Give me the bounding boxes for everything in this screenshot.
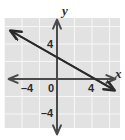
y-tick-label-positive-four: 4 — [47, 38, 54, 50]
coordinate-plane-figure: y x –4 0 4 4 –4 — [0, 0, 125, 140]
x-tick-label-positive-four: 4 — [88, 82, 95, 94]
coordinate-plane-svg: y x –4 0 4 4 –4 — [0, 0, 125, 140]
x-tick-label-negative-four: –4 — [21, 82, 34, 94]
x-axis-name-label: x — [114, 66, 122, 81]
origin-label: 0 — [48, 82, 54, 94]
y-axis-name-label: y — [60, 3, 68, 18]
y-tick-label-negative-four: –4 — [41, 107, 54, 119]
